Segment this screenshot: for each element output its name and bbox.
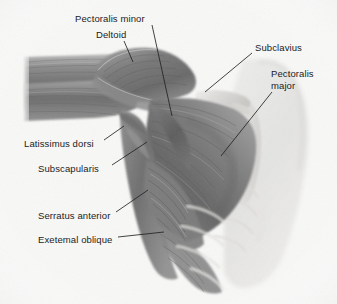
label-latissimus-dorsi: Latissimus dorsi [24,138,94,150]
label-line: Subclavius [255,42,302,54]
label-subclavius: Subclavius [255,42,302,54]
label-line: Subscapularis [38,163,99,175]
label-line: Latissimus dorsi [24,138,94,150]
label-pectoralis-minor: Pectoralis minor [75,13,145,25]
label-subscapularis: Subscapularis [38,163,99,175]
label-pectoralis-major: Pectoralismajor [271,68,314,91]
label-line: Pectoralis [271,68,314,80]
label-line: Pectoralis minor [75,13,145,25]
label-exetemal-oblique: Exetemal oblique [38,234,112,246]
anatomy-figure: Pectoralis minorDeltoidSubclaviusPectora… [0,0,337,304]
label-line: Deltoid [96,29,126,41]
label-deltoid: Deltoid [96,29,126,41]
label-line: Serratus anterior [38,210,110,222]
label-serratus-anterior: Serratus anterior [38,210,110,222]
label-line: major [271,80,314,92]
label-line: Exetemal oblique [38,234,112,246]
